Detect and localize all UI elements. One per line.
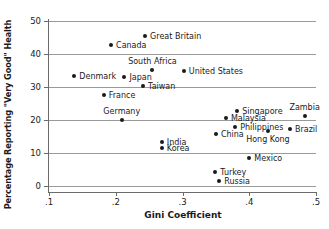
gridline-y bbox=[49, 21, 316, 22]
data-point bbox=[143, 34, 147, 38]
data-point bbox=[288, 127, 292, 131]
y-tick-label: 20 bbox=[30, 115, 41, 125]
data-point bbox=[235, 109, 239, 113]
data-point-label: Zambia bbox=[289, 103, 319, 112]
y-tick-label: 40 bbox=[30, 49, 41, 59]
x-tick-mark bbox=[183, 192, 184, 196]
gridline-y bbox=[49, 186, 316, 187]
data-point bbox=[247, 156, 251, 160]
y-tick-label: 30 bbox=[30, 82, 41, 92]
data-point-label: China bbox=[221, 129, 244, 138]
data-point-label: Japan bbox=[129, 72, 151, 81]
data-point-label: Brazil bbox=[295, 124, 317, 133]
y-tick-mark bbox=[44, 120, 48, 121]
data-point bbox=[141, 84, 145, 88]
x-tick-label: .2 bbox=[112, 197, 120, 207]
y-tick-label: 0 bbox=[36, 181, 41, 191]
data-point-label: Canada bbox=[116, 41, 146, 50]
data-point bbox=[233, 125, 237, 129]
data-point-label: Philippines bbox=[240, 122, 283, 131]
y-tick-mark bbox=[44, 54, 48, 55]
y-axis-title: Percentage Reporting "Very Good" Health bbox=[0, 0, 16, 229]
gridline-y bbox=[49, 87, 316, 88]
data-point bbox=[214, 132, 218, 136]
data-point bbox=[217, 179, 221, 183]
data-point bbox=[160, 146, 164, 150]
data-point bbox=[160, 140, 164, 144]
x-tick-mark bbox=[249, 192, 250, 196]
data-point-label: South Africa bbox=[128, 57, 177, 66]
y-tick-label: 10 bbox=[30, 148, 41, 158]
data-point bbox=[120, 118, 124, 122]
data-point bbox=[150, 68, 154, 72]
data-point-label: Korea bbox=[167, 144, 190, 153]
data-point bbox=[213, 170, 217, 174]
x-tick-label: .1 bbox=[45, 197, 53, 207]
data-point-label: Denmark bbox=[79, 72, 116, 81]
data-point-label: France bbox=[109, 91, 136, 100]
x-tick-label: .5 bbox=[312, 197, 320, 207]
data-point-label: Russia bbox=[224, 176, 250, 185]
data-point-label: Taiwan bbox=[148, 82, 175, 91]
x-tick-mark bbox=[49, 192, 50, 196]
data-point bbox=[72, 74, 76, 78]
data-point-label: Hong Kong bbox=[246, 135, 290, 144]
x-tick-mark bbox=[316, 192, 317, 196]
y-tick-label: 50 bbox=[30, 16, 41, 26]
data-point bbox=[122, 75, 126, 79]
data-point bbox=[303, 114, 307, 118]
data-point bbox=[224, 116, 228, 120]
y-tick-mark bbox=[44, 186, 48, 187]
y-tick-mark bbox=[44, 21, 48, 22]
data-point-label: Germany bbox=[103, 107, 140, 116]
y-tick-mark bbox=[44, 153, 48, 154]
x-tick-label: .3 bbox=[178, 197, 186, 207]
data-point bbox=[109, 43, 113, 47]
gridline-y bbox=[49, 54, 316, 55]
x-tick-label: .4 bbox=[245, 197, 253, 207]
data-point bbox=[182, 69, 186, 73]
plot-area: 01020304050Great BritainCanadaSouth Afri… bbox=[49, 21, 316, 186]
data-point bbox=[102, 93, 106, 97]
data-point bbox=[266, 129, 270, 133]
x-axis-title: Gini Coefficient bbox=[48, 210, 318, 220]
data-point-label: United States bbox=[189, 66, 243, 75]
x-tick-mark bbox=[116, 192, 117, 196]
data-point-label: Mexico bbox=[254, 153, 282, 162]
y-tick-mark bbox=[44, 87, 48, 88]
data-point-label: Great Britain bbox=[150, 31, 201, 40]
gridline-y bbox=[49, 120, 316, 121]
scatter-chart: Percentage Reporting "Very Good" Health … bbox=[0, 0, 329, 229]
